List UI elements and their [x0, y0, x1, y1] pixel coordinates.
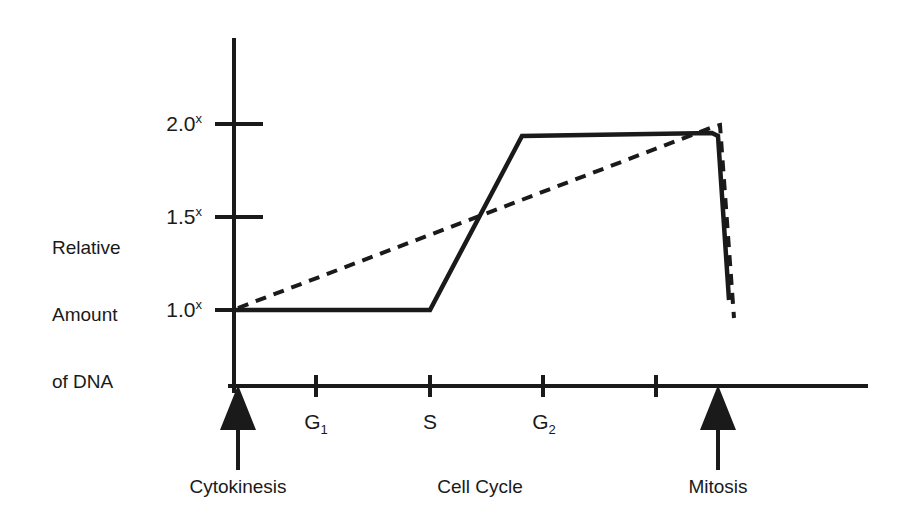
x-axis-title: Cell Cycle: [400, 476, 560, 498]
solid-dna-curve: [236, 133, 729, 310]
event-label-mitosis: Mitosis: [648, 476, 788, 498]
y-axis-title-line-3: of DNA: [52, 371, 172, 393]
phase-label-g1-subscript: 1: [321, 422, 328, 437]
cell-cycle-dna-chart: 2.0x 1.5x 1.0x Relative Amount of DNA G1…: [0, 0, 902, 531]
cytokinesis-arrow-marker: [220, 385, 256, 470]
y-axis-title-line-1: Relative: [52, 237, 172, 259]
y-axis-title-line-2: Amount: [52, 304, 172, 326]
event-label-cytokinesis: Cytokinesis: [158, 476, 318, 498]
phase-label-g1: G1: [283, 410, 349, 435]
y-axis-title: Relative Amount of DNA: [52, 192, 172, 438]
phase-label-g2: G2: [511, 410, 577, 435]
y-tick-sup-2-0x: x: [196, 111, 203, 126]
y-tick-sup-1-0x: x: [196, 297, 203, 312]
dashed-dna-curve: [238, 125, 734, 318]
y-tick-label-2-0x: 2.0x: [128, 112, 202, 137]
cytokinesis-arrow-head: [220, 385, 256, 430]
mitosis-arrow-marker: [700, 385, 736, 470]
mitosis-arrow-head: [700, 385, 736, 430]
phase-label-s: S: [405, 410, 455, 435]
y-tick-sup-1-5x: x: [196, 204, 203, 219]
phase-label-g2-subscript: 2: [549, 422, 556, 437]
